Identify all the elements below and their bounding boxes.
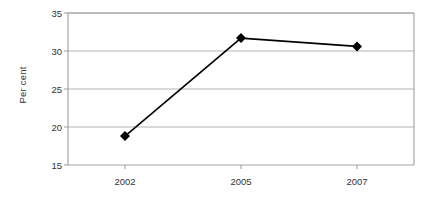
plot-area: [0, 0, 431, 202]
gridlines: [68, 13, 414, 127]
line-chart: Per cent 35 30 25 20 15 2002 2005 2007: [0, 0, 431, 202]
data-series-markers: [120, 33, 362, 141]
data-point-2007: [352, 41, 362, 51]
x-axis-ticks: [125, 165, 357, 169]
data-series-line: [125, 38, 357, 136]
